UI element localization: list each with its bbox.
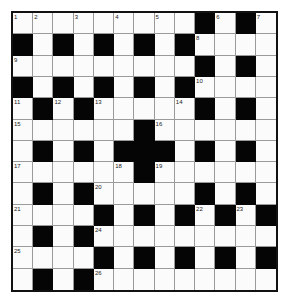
answer-cell[interactable]	[175, 162, 195, 183]
answer-cell[interactable]	[74, 205, 94, 226]
answer-cell[interactable]: 22	[195, 205, 215, 226]
answer-cell[interactable]	[236, 162, 256, 183]
answer-cell[interactable]: 20	[94, 183, 114, 204]
answer-cell[interactable]	[74, 77, 94, 98]
answer-cell[interactable]	[155, 98, 175, 119]
answer-cell[interactable]	[74, 120, 94, 141]
answer-cell[interactable]	[155, 56, 175, 77]
answer-cell[interactable]	[175, 13, 195, 34]
answer-cell[interactable]	[94, 13, 114, 34]
answer-cell[interactable]	[114, 98, 134, 119]
answer-cell[interactable]	[53, 162, 73, 183]
answer-cell[interactable]	[155, 269, 175, 290]
answer-cell[interactable]: 18	[114, 162, 134, 183]
answer-cell[interactable]	[236, 120, 256, 141]
answer-cell[interactable]	[155, 226, 175, 247]
answer-cell[interactable]	[256, 120, 276, 141]
answer-cell[interactable]	[256, 141, 276, 162]
answer-cell[interactable]	[114, 226, 134, 247]
answer-cell[interactable]	[33, 56, 53, 77]
answer-cell[interactable]: 1	[13, 13, 33, 34]
answer-cell[interactable]: 3	[74, 13, 94, 34]
answer-cell[interactable]	[175, 183, 195, 204]
answer-cell[interactable]	[114, 247, 134, 268]
answer-cell[interactable]	[74, 162, 94, 183]
answer-cell[interactable]: 21	[13, 205, 33, 226]
answer-cell[interactable]	[215, 141, 235, 162]
answer-cell[interactable]	[195, 162, 215, 183]
answer-cell[interactable]	[155, 77, 175, 98]
answer-cell[interactable]	[53, 247, 73, 268]
answer-cell[interactable]	[256, 77, 276, 98]
answer-cell[interactable]	[256, 269, 276, 290]
answer-cell[interactable]: 9	[13, 56, 33, 77]
answer-cell[interactable]: 23	[236, 205, 256, 226]
answer-cell[interactable]	[215, 162, 235, 183]
answer-cell[interactable]	[215, 269, 235, 290]
answer-cell[interactable]: 24	[94, 226, 114, 247]
answer-cell[interactable]	[134, 13, 154, 34]
answer-cell[interactable]	[215, 77, 235, 98]
answer-cell[interactable]	[33, 205, 53, 226]
answer-cell[interactable]	[215, 226, 235, 247]
answer-cell[interactable]	[33, 247, 53, 268]
answer-cell[interactable]: 13	[94, 98, 114, 119]
answer-cell[interactable]	[175, 269, 195, 290]
answer-cell[interactable]	[53, 56, 73, 77]
answer-cell[interactable]	[236, 269, 256, 290]
answer-cell[interactable]	[175, 56, 195, 77]
answer-cell[interactable]	[74, 34, 94, 55]
answer-cell[interactable]: 25	[13, 247, 33, 268]
answer-cell[interactable]	[13, 226, 33, 247]
answer-cell[interactable]	[114, 77, 134, 98]
answer-cell[interactable]	[256, 56, 276, 77]
answer-cell[interactable]: 11	[13, 98, 33, 119]
answer-cell[interactable]	[134, 56, 154, 77]
answer-cell[interactable]: 14	[175, 98, 195, 119]
answer-cell[interactable]	[134, 269, 154, 290]
answer-cell[interactable]	[74, 247, 94, 268]
answer-cell[interactable]	[33, 120, 53, 141]
answer-cell[interactable]: 8	[195, 34, 215, 55]
answer-cell[interactable]	[53, 269, 73, 290]
answer-cell[interactable]	[236, 226, 256, 247]
answer-cell[interactable]	[155, 205, 175, 226]
answer-cell[interactable]	[13, 183, 33, 204]
answer-cell[interactable]	[94, 120, 114, 141]
answer-cell[interactable]	[215, 34, 235, 55]
answer-cell[interactable]	[114, 205, 134, 226]
answer-cell[interactable]: 19	[155, 162, 175, 183]
answer-cell[interactable]: 16	[155, 120, 175, 141]
answer-cell[interactable]	[236, 77, 256, 98]
answer-cell[interactable]: 7	[256, 13, 276, 34]
answer-cell[interactable]: 17	[13, 162, 33, 183]
answer-cell[interactable]	[236, 34, 256, 55]
answer-cell[interactable]	[114, 34, 134, 55]
answer-cell[interactable]	[114, 269, 134, 290]
answer-cell[interactable]	[13, 269, 33, 290]
answer-cell[interactable]	[13, 141, 33, 162]
answer-cell[interactable]	[53, 120, 73, 141]
answer-cell[interactable]	[33, 162, 53, 183]
answer-cell[interactable]	[114, 120, 134, 141]
answer-cell[interactable]: 2	[33, 13, 53, 34]
answer-cell[interactable]	[53, 205, 73, 226]
answer-cell[interactable]	[134, 183, 154, 204]
answer-cell[interactable]	[215, 120, 235, 141]
answer-cell[interactable]	[215, 98, 235, 119]
answer-cell[interactable]: 6	[215, 13, 235, 34]
answer-cell[interactable]	[74, 56, 94, 77]
answer-cell[interactable]: 4	[114, 13, 134, 34]
answer-cell[interactable]	[134, 98, 154, 119]
answer-cell[interactable]	[114, 56, 134, 77]
answer-cell[interactable]	[256, 183, 276, 204]
answer-cell[interactable]	[195, 269, 215, 290]
answer-cell[interactable]	[33, 34, 53, 55]
answer-cell[interactable]: 12	[53, 98, 73, 119]
answer-cell[interactable]	[33, 77, 53, 98]
answer-cell[interactable]	[195, 226, 215, 247]
answer-cell[interactable]	[256, 34, 276, 55]
answer-cell[interactable]	[53, 226, 73, 247]
answer-cell[interactable]	[94, 141, 114, 162]
answer-cell[interactable]	[53, 183, 73, 204]
